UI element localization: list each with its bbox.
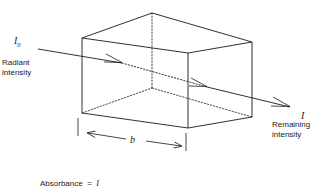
cuboid-visible-edges [82, 13, 252, 128]
absorbance-equation: Absorbance = I [40, 179, 99, 189]
ray-internal-segment [122, 63, 207, 87]
ray-arrowheads [104, 54, 290, 107]
incident-intensity-caption: Radiant intensity [2, 58, 31, 77]
arrowhead-midpath [189, 78, 207, 87]
diagram-canvas [0, 0, 326, 192]
ray-exit-segment [207, 87, 290, 107]
dimension-arrow-left [88, 133, 126, 139]
path-length-symbol: b [130, 134, 135, 145]
absorption-cell-diagram: I0 Radiant intensity I Remaining intensi… [0, 0, 326, 192]
incident-intensity-symbol: I0 [14, 35, 21, 48]
remaining-intensity-caption: Remaining intensity [272, 120, 310, 139]
dimension-arrow-right [146, 141, 181, 146]
